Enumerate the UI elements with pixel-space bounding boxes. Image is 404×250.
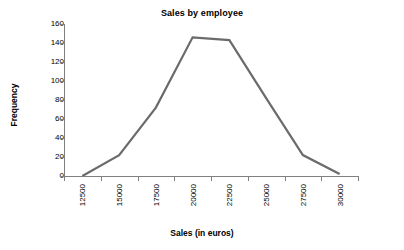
x-tick-mark xyxy=(321,177,322,181)
x-tick-label: 17500 xyxy=(151,184,161,224)
y-tick-mark xyxy=(60,176,64,177)
x-tick-label-text: 17500 xyxy=(151,184,160,206)
y-axis-title-text: Frequency xyxy=(8,84,18,127)
y-tick-mark xyxy=(60,81,64,82)
x-tick-label: 20000 xyxy=(188,184,198,224)
x-tick-mark xyxy=(248,177,249,181)
x-tick-label-text: 30000 xyxy=(335,184,344,206)
y-tick-mark xyxy=(60,43,64,44)
x-tick-mark xyxy=(174,177,175,181)
x-tick-label: 30000 xyxy=(335,184,345,224)
x-tick-label: 15000 xyxy=(114,184,124,224)
y-tick-mark xyxy=(60,24,64,25)
chart-title: Sales by employee xyxy=(0,8,404,18)
y-axis-ticks: 020406080100120140160 xyxy=(30,24,64,177)
x-tick-label-text: 15000 xyxy=(115,184,124,206)
x-axis-title: Sales (in euros) xyxy=(0,228,404,238)
y-tick-mark xyxy=(60,62,64,63)
x-tick-label-text: 25000 xyxy=(262,184,271,206)
y-tick-mark xyxy=(60,100,64,101)
y-tick-mark xyxy=(60,157,64,158)
y-axis-title: Frequency xyxy=(6,60,20,150)
series-frequency-path xyxy=(82,37,339,176)
x-tick-mark xyxy=(358,177,359,181)
chart-container: Sales by employee Frequency 020406080100… xyxy=(0,0,404,250)
x-tick-mark xyxy=(64,177,65,181)
x-tick-mark xyxy=(138,177,139,181)
plot-area xyxy=(64,24,358,176)
x-tick-mark xyxy=(211,177,212,181)
x-tick-label: 27500 xyxy=(298,184,308,224)
y-tick-mark xyxy=(60,119,64,120)
x-tick-label-text: 20000 xyxy=(188,184,197,206)
x-tick-label-text: 27500 xyxy=(298,184,307,206)
x-tick-label-text: 22500 xyxy=(225,184,234,206)
x-tick-label: 22500 xyxy=(224,184,234,224)
x-tick-mark xyxy=(101,177,102,181)
x-tick-mark xyxy=(285,177,286,181)
frequency-polygon-line xyxy=(64,24,358,176)
x-tick-label: 25000 xyxy=(261,184,271,224)
y-tick-mark xyxy=(60,138,64,139)
x-tick-label-text: 12500 xyxy=(78,184,87,206)
x-tick-label: 12500 xyxy=(77,184,87,224)
